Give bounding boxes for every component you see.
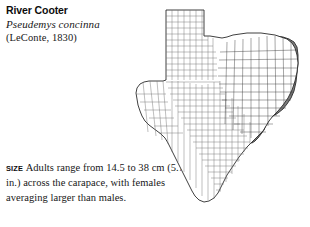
species-header: River Cooter Pseudemys concinna (LeConte… xyxy=(6,4,138,45)
size-label: SIZE xyxy=(6,164,23,173)
scientific-name: Pseudemys concinna xyxy=(6,17,138,31)
species-account-page: River Cooter Pseudemys concinna (LeConte… xyxy=(0,0,310,227)
common-name: River Cooter xyxy=(6,4,138,17)
distribution-map xyxy=(128,2,310,227)
taxonomic-authority: (LeConte, 1830) xyxy=(6,31,138,45)
texas-map-svg xyxy=(128,2,310,227)
